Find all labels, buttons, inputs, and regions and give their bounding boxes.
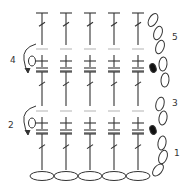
double-crochet-symbol	[84, 134, 96, 170]
row-label-5: 5	[172, 32, 178, 42]
double-crochet-symbol	[60, 13, 72, 45]
single-crochet-symbol	[108, 111, 120, 133]
chain-stitch	[158, 110, 168, 125]
chain-stitch	[157, 135, 167, 150]
single-crochet-symbol	[36, 49, 48, 71]
single-crochet-symbol	[108, 49, 120, 71]
stitch-grid	[36, 13, 144, 170]
double-crochet-symbol	[132, 13, 144, 45]
slip-stitch	[149, 63, 158, 74]
chain-stitch	[54, 172, 78, 181]
arrowhead-icon	[25, 130, 30, 135]
foundation-chain	[30, 172, 150, 181]
chain-stitch	[150, 162, 165, 178]
double-crochet-symbol	[36, 134, 48, 170]
single-crochet-symbol	[132, 111, 144, 133]
double-crochet-symbol	[36, 13, 48, 45]
chain-stitch	[78, 172, 102, 181]
double-crochet-symbol	[60, 72, 72, 106]
chain-stitch	[29, 118, 36, 128]
turn-arrow	[24, 44, 36, 72]
single-crochet-symbol	[60, 49, 72, 71]
chain-stitch	[102, 172, 126, 181]
slip-stitch	[149, 125, 158, 136]
single-crochet-symbol	[36, 111, 48, 133]
double-crochet-symbol	[84, 72, 96, 106]
row-label-4: 4	[10, 55, 16, 65]
double-crochet-symbol	[60, 134, 72, 170]
double-crochet-symbol	[108, 13, 120, 45]
chain-stitch	[30, 172, 54, 181]
chain-stitch	[29, 56, 36, 66]
chain-stitch	[154, 96, 165, 112]
turn-arrows	[24, 44, 36, 135]
double-crochet-symbol	[108, 72, 120, 106]
single-crochet-symbol	[84, 111, 96, 133]
chain-stitch	[160, 73, 169, 88]
double-crochet-symbol	[36, 72, 48, 106]
single-crochet-symbol	[132, 49, 144, 71]
double-crochet-symbol	[108, 134, 120, 170]
crochet-chart	[0, 0, 190, 190]
turning-chains	[146, 12, 170, 178]
chain-stitch	[146, 12, 160, 28]
single-crochet-symbol	[84, 49, 96, 71]
double-crochet-symbol	[132, 134, 144, 170]
chain-stitch	[126, 172, 150, 181]
row-label-1: 1	[174, 148, 180, 158]
double-crochet-symbol	[84, 13, 96, 45]
double-crochet-symbol	[132, 72, 144, 106]
chain-stitch	[154, 39, 166, 55]
single-crochet-symbol	[60, 111, 72, 133]
chain-stitch	[152, 25, 164, 41]
row-label-2: 2	[8, 120, 14, 130]
turn-arrow	[24, 106, 36, 134]
row-label-3: 3	[172, 98, 178, 108]
chain-stitch	[157, 149, 169, 165]
arrowhead-icon	[25, 68, 30, 73]
chain-stitch	[158, 57, 167, 72]
